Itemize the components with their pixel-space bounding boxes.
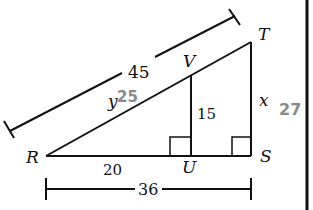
similar-triangles-diagram: R S T V U 45 y 15 x 20 36 25 27 [0, 0, 313, 210]
measure-rs: 36 [138, 180, 158, 199]
answer-x: 27 [279, 100, 301, 119]
label-u: U [182, 157, 197, 177]
measure-ts: x [259, 90, 269, 110]
right-angle-marker-u [170, 137, 191, 156]
label-v: V [183, 51, 197, 71]
answer-y: 25 [117, 88, 138, 106]
label-s: S [260, 146, 272, 166]
measure-ru: 20 [103, 161, 122, 179]
measure-vu: 15 [197, 105, 216, 123]
label-t: T [258, 24, 271, 44]
right-angle-marker-s [232, 137, 251, 156]
label-r: R [25, 147, 39, 167]
measure-rt: 45 [128, 62, 150, 82]
triangle-rst [46, 42, 251, 156]
diagram-canvas: R S T V U 45 y 15 x 20 36 25 27 [0, 0, 313, 210]
